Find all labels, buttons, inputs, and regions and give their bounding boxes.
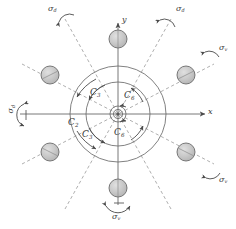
sigma-d-top-left-label: σd xyxy=(48,5,57,13)
c6-upper-label: C6 xyxy=(124,91,134,101)
atom-30 xyxy=(177,66,195,84)
sigma-v-bottom-label: σv xyxy=(112,213,120,221)
c6-arrow-lower xyxy=(131,126,143,140)
atom-90 xyxy=(109,30,127,48)
atom-210 xyxy=(41,143,59,161)
cartesian-axes xyxy=(20,23,205,205)
sigma-v-right-lower-label: σv xyxy=(219,176,227,184)
sigma-v-right-lower-arrow xyxy=(206,173,220,179)
atom-330 xyxy=(177,143,195,161)
c3-upper-label: C3 xyxy=(90,88,100,98)
sigma-v-right-upper-label: σv xyxy=(219,44,227,52)
y-axis-label: y xyxy=(122,16,127,24)
x-axis-label: x xyxy=(208,108,213,116)
symmetry-diagram xyxy=(0,0,236,229)
sigma-v-bottom-arrow xyxy=(106,206,130,213)
atom-270 xyxy=(109,179,127,197)
c3-lower-label: C3 xyxy=(82,130,92,140)
origin-dot xyxy=(116,112,119,115)
sigma-d-left-label: σd xyxy=(7,105,15,114)
sigma-v-right-upper-arrow xyxy=(205,51,219,57)
sigma-d-top-right-label: σd xyxy=(176,5,185,13)
figure-canvas: x y σd σd σd σv σv σv C2 C3 C3 C6 C6 xyxy=(0,0,236,229)
c6-inner-arrow-lower xyxy=(120,121,126,122)
sigma-d-left-arrow xyxy=(17,104,24,126)
sigma-d-top-left-arrow xyxy=(59,14,74,22)
c6-lower-label: C6 xyxy=(114,128,124,138)
c2-label: C2 xyxy=(68,118,78,128)
atom-150 xyxy=(41,66,59,84)
